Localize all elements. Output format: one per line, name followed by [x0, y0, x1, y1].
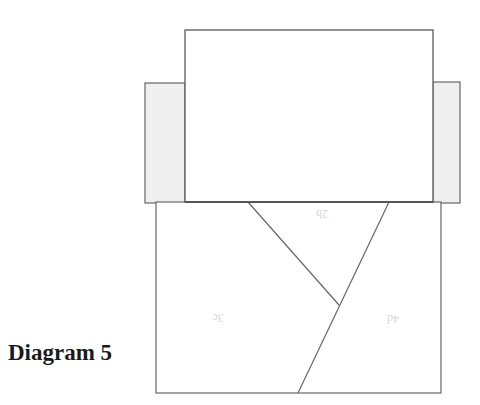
piece-label-2b: 2b — [316, 207, 328, 221]
piece-label-4d: 4d — [387, 312, 399, 326]
bottom-rectangle — [156, 202, 441, 393]
top-panel — [185, 30, 433, 202]
piece-label-3c: 3c — [212, 311, 223, 325]
left-side-panel — [145, 83, 185, 203]
diagram-caption: Diagram 5 — [8, 340, 112, 366]
right-side-panel — [433, 82, 460, 203]
